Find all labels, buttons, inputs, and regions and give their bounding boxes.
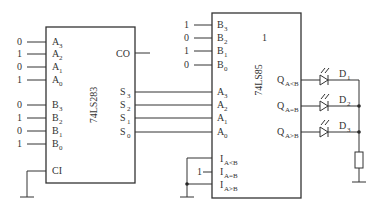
adder-output-s3: S3 (120, 86, 131, 100)
svg-text:I: I (220, 153, 223, 164)
svg-text:B: B (217, 32, 224, 43)
comparator-input-b3: 1 B3 (184, 19, 228, 33)
comparator-output-gt: QA>B (277, 126, 299, 140)
svg-text:B: B (52, 125, 59, 136)
adder-output-s2: S2 (120, 99, 131, 113)
led-d1: D1 (301, 68, 359, 85)
svg-text:B: B (52, 138, 59, 149)
adder-input-a0: 1 A0 (17, 74, 63, 88)
svg-text:B: B (217, 59, 224, 70)
svg-text:B: B (52, 99, 59, 110)
comparator-output-lt: QA<B (277, 74, 299, 88)
svg-text:A<B: A<B (224, 159, 238, 167)
adder-output-s1: S1 (120, 112, 131, 126)
svg-text:B: B (52, 112, 59, 123)
svg-text:3: 3 (224, 92, 228, 100)
adder-input-a2: 1 A2 (17, 48, 63, 62)
led-icon (320, 75, 328, 85)
svg-text:1: 1 (347, 74, 351, 82)
svg-text:S: S (120, 86, 126, 97)
svg-text:0: 0 (17, 61, 22, 72)
svg-text:0: 0 (224, 65, 228, 73)
svg-text:CI: CI (52, 165, 62, 176)
svg-text:3: 3 (59, 42, 63, 50)
adder-carry-out: CO (116, 48, 150, 59)
svg-text:S: S (120, 99, 126, 110)
svg-text:B: B (217, 45, 224, 56)
adder-input-b2: 1 B2 (17, 112, 63, 126)
sum-bus (135, 92, 212, 132)
svg-text:0: 0 (127, 132, 131, 140)
comparator-input-a1: A1 (217, 112, 228, 126)
svg-text:1: 1 (17, 48, 22, 59)
svg-text:0: 0 (17, 125, 22, 136)
adder-chip-name: 74LS283 (88, 87, 99, 124)
svg-text:3: 3 (224, 25, 228, 33)
comparator-cascade-gt: IA>B (180, 179, 238, 197)
comparator-input-a2: A2 (217, 99, 228, 113)
svg-text:1: 1 (59, 131, 63, 139)
svg-text:3: 3 (59, 105, 63, 113)
svg-text:1: 1 (184, 45, 189, 56)
svg-text:2: 2 (347, 100, 351, 108)
svg-text:A<B: A<B (285, 80, 299, 88)
svg-text:Q: Q (277, 74, 285, 85)
svg-text:2: 2 (59, 118, 63, 126)
svg-text:I: I (220, 166, 223, 177)
svg-text:1: 1 (17, 74, 22, 85)
led-d2: D2 (301, 94, 361, 111)
led-d3: D3 (301, 120, 361, 137)
led-icon (320, 127, 328, 137)
adder-input-b0: 1 B0 (17, 138, 63, 152)
svg-text:0: 0 (184, 59, 189, 70)
led-icon (320, 101, 328, 111)
svg-text:A=B: A=B (224, 172, 238, 180)
adder-input-b1: 0 B1 (17, 125, 63, 139)
svg-text:2: 2 (59, 54, 63, 62)
svg-text:D: D (339, 120, 346, 131)
comparator-input-b0: 0 B0 (184, 59, 228, 73)
svg-text:1: 1 (59, 67, 63, 75)
svg-text:I: I (220, 179, 223, 190)
svg-text:D: D (339, 68, 346, 79)
svg-text:3: 3 (127, 92, 131, 100)
svg-text:A>B: A>B (285, 132, 299, 140)
svg-text:0: 0 (224, 132, 228, 140)
comparator-marker: 1 (262, 32, 267, 43)
adder-carry-in: CI (20, 165, 62, 197)
comparator-input-a3: A3 (217, 86, 228, 100)
svg-text:0: 0 (17, 36, 22, 47)
svg-text:1: 1 (127, 118, 131, 126)
svg-text:D: D (339, 94, 346, 105)
svg-text:2: 2 (127, 105, 131, 113)
svg-text:S: S (120, 112, 126, 123)
circuit-diagram: 74LS283 0 A3 1 A2 0 A1 1 A0 0 B3 1 B2 0 … (0, 0, 380, 210)
svg-text:0: 0 (17, 99, 22, 110)
adder-input-b3: 0 B3 (17, 99, 63, 113)
svg-text:Q: Q (277, 126, 285, 137)
resistor-icon (355, 152, 363, 168)
svg-text:1: 1 (184, 19, 189, 30)
svg-text:0: 0 (59, 144, 63, 152)
svg-text:0: 0 (59, 80, 63, 88)
svg-text:B: B (217, 19, 224, 30)
svg-text:Q: Q (277, 100, 285, 111)
svg-text:1: 1 (17, 138, 22, 149)
svg-text:1: 1 (224, 118, 228, 126)
comparator-input-b1: 1 B1 (184, 45, 228, 59)
svg-text:A=B: A=B (285, 106, 299, 114)
resistor-to-ground (352, 80, 366, 182)
svg-text:2: 2 (224, 105, 228, 113)
svg-text:2: 2 (224, 38, 228, 46)
svg-text:A>B: A>B (224, 185, 238, 193)
svg-text:1: 1 (17, 112, 22, 123)
svg-text:CO: CO (116, 48, 130, 59)
svg-text:1: 1 (224, 51, 228, 59)
svg-text:1: 1 (197, 166, 202, 177)
adder-output-s0: S0 (120, 126, 131, 140)
comparator-input-a0: A0 (217, 126, 228, 140)
comparator-input-b2: 0 B2 (184, 32, 228, 46)
comparator-cascade-eq: 1 IA=B (197, 166, 238, 180)
svg-text:0: 0 (184, 32, 189, 43)
comparator-chip-name: 74LS85 (253, 64, 264, 96)
